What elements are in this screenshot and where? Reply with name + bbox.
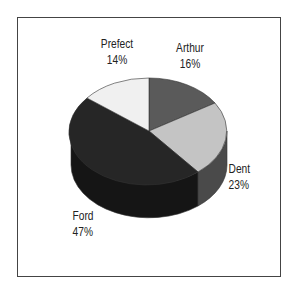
label-arthur: Arthur 16% — [171, 40, 208, 72]
label-ford-name: Ford — [73, 208, 102, 224]
label-prefect-name: Prefect — [96, 36, 139, 52]
label-dent-name: Dent — [229, 161, 258, 177]
label-dent-pct: 23% — [229, 177, 258, 193]
pie-chart — [0, 0, 296, 290]
label-dent: Dent 23% — [229, 161, 258, 193]
label-ford-pct: 47% — [73, 224, 102, 240]
label-arthur-name: Arthur — [171, 40, 208, 56]
label-prefect-pct: 14% — [96, 52, 139, 68]
label-arthur-pct: 16% — [171, 56, 208, 72]
label-prefect: Prefect 14% — [96, 36, 139, 68]
label-ford: Ford 47% — [73, 208, 102, 240]
